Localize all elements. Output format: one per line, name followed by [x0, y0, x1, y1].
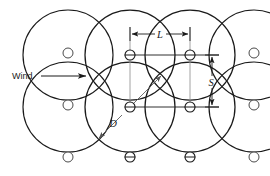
turbine-marker: [63, 100, 73, 110]
turbine-marker-hub: [185, 102, 196, 112]
turbine-marker-hub: [125, 50, 136, 60]
turbine-marker-hub: [125, 152, 136, 162]
turbine-marker-hub: [185, 152, 196, 162]
turbine-marker-hub: [125, 102, 136, 112]
turbine-marker: [63, 152, 73, 162]
turbine-marker: [249, 152, 259, 162]
wind-label: Wind: [12, 71, 33, 81]
figure-root: L S D: [0, 0, 270, 176]
diagram-background: [0, 0, 270, 176]
dimension-D-label: D: [108, 118, 117, 129]
dimension-L-label: L: [156, 29, 163, 40]
turbine-marker: [249, 100, 259, 110]
dimension-S-label: S: [208, 77, 214, 88]
wind-array-diagram: L S D: [0, 0, 270, 176]
turbine-marker: [249, 48, 259, 58]
turbine-marker: [63, 48, 73, 58]
turbine-marker-hub: [185, 50, 196, 60]
